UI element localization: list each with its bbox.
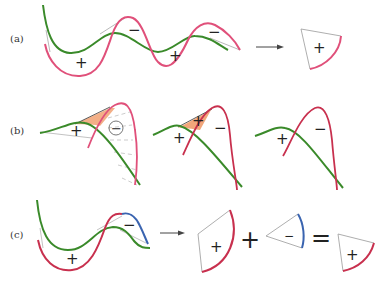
- row-a-sign-1: +: [75, 54, 88, 72]
- row-b: (b) − + + +: [10, 103, 343, 190]
- row-c: (c) + − + + − =: [10, 200, 374, 272]
- row-b-p3-plus: +: [276, 130, 289, 148]
- row-b-p1-minus: −: [111, 121, 122, 136]
- row-c-result-sign: +: [346, 246, 359, 264]
- row-c-result-sector: +: [338, 234, 374, 271]
- row-c-arrow-icon: [160, 231, 185, 236]
- row-c-sign-minus: −: [123, 216, 136, 234]
- row-c-plus-operator: +: [240, 226, 260, 254]
- row-b-panel-2: + + −: [153, 106, 242, 190]
- row-c-sector-1-sign: +: [210, 238, 223, 256]
- row-a-label: (a): [10, 33, 24, 44]
- row-b-p2-minus: −: [214, 119, 227, 137]
- row-a-sign-4: −: [208, 23, 221, 41]
- row-c-equals-operator: =: [311, 224, 331, 252]
- row-b-p2-plus: +: [173, 129, 186, 147]
- row-b-panel-1: − +: [40, 103, 140, 185]
- row-c-sector-2-sign: −: [284, 229, 294, 243]
- row-c-sector-2: −: [266, 214, 304, 248]
- row-b-p2-plus-top: +: [192, 112, 205, 130]
- row-c-sign-plus: +: [66, 250, 79, 268]
- row-a-result-sign: +: [313, 39, 326, 57]
- row-b-p1-plus: +: [70, 122, 83, 140]
- row-a-sign-2: −: [128, 21, 141, 39]
- row-a-sign-3: +: [169, 47, 182, 65]
- row-b-p3-minus: −: [314, 120, 327, 138]
- row-a-arrow-icon: [256, 45, 284, 50]
- row-a-result-sector: +: [301, 29, 341, 69]
- row-c-label: (c): [10, 229, 24, 240]
- row-a: (a) + − + − +: [10, 5, 341, 76]
- row-c-sector-1: +: [198, 210, 234, 272]
- diagram-canvas: (a) + − + − + (b): [0, 0, 381, 287]
- row-b-panel-3: + −: [255, 107, 343, 190]
- row-b-label: (b): [10, 125, 24, 136]
